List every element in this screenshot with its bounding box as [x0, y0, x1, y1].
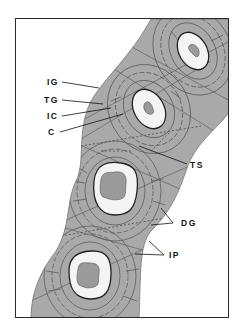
- label-ig: IG: [47, 78, 59, 87]
- diagram-frame: IG TG IC C TS DG IP: [15, 18, 229, 318]
- label-tg: TG: [44, 96, 59, 105]
- label-ic: IC: [47, 112, 59, 121]
- osteon-3: [94, 162, 138, 215]
- label-c: C: [48, 128, 56, 137]
- osteon-4: [69, 251, 111, 299]
- label-ip: IP: [169, 251, 180, 260]
- label-ts: TS: [190, 161, 204, 170]
- label-dg: DG: [181, 219, 197, 228]
